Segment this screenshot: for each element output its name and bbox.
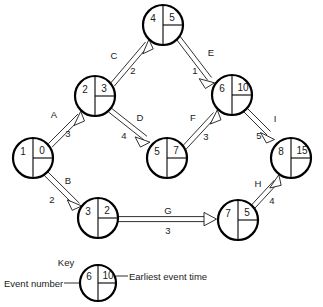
edge-F: F 3 xyxy=(182,110,221,150)
edge-G-duration-label: 3 xyxy=(165,225,170,236)
node-8-event-number: 8 xyxy=(278,146,284,157)
key-earliest-event-time-label: Earliest event time xyxy=(129,271,207,282)
node-6-event-number: 6 xyxy=(219,83,225,94)
edge-B: B 2 xyxy=(43,171,82,211)
node-event-6[interactable]: 6 10 xyxy=(212,75,252,115)
edge-H-activity-label: H xyxy=(255,178,262,189)
node-4-event-number: 4 xyxy=(150,13,156,24)
edge-D-activity-label: D xyxy=(137,112,144,123)
edge-B-duration-label: 2 xyxy=(49,194,54,205)
node-4-earliest-time: 5 xyxy=(169,12,175,23)
node-event-8[interactable]: 8 15 xyxy=(271,138,311,178)
node-8-earliest-time: 15 xyxy=(296,145,308,156)
edge-C: C 2 xyxy=(111,39,154,86)
edge-G: G 3 xyxy=(118,205,217,236)
node-3-earliest-time: 2 xyxy=(104,205,110,216)
edge-F-duration-label: 3 xyxy=(203,131,208,142)
node-event-7[interactable]: 7 5 xyxy=(218,200,258,240)
node-1-event-number: 1 xyxy=(20,146,26,157)
edge-E-duration-label: 1 xyxy=(192,65,197,76)
edge-I-activity-label: I xyxy=(274,113,277,124)
edge-F-activity-label: F xyxy=(190,112,196,123)
node-6-earliest-time: 10 xyxy=(237,82,249,93)
edge-H: H 4 xyxy=(251,175,281,209)
node-2-event-number: 2 xyxy=(82,84,88,95)
node-7-earliest-time: 5 xyxy=(244,207,250,218)
node-event-5[interactable]: 5 7 xyxy=(147,138,187,178)
node-3-event-number: 3 xyxy=(85,206,91,217)
edge-I: I 5 xyxy=(244,108,277,143)
edge-C-duration-label: 2 xyxy=(130,65,135,76)
node-1-earliest-time: 0 xyxy=(39,145,45,156)
activity-network-diagram: A 3 B 2 C 2 D 4 E 1 xyxy=(0,0,323,307)
edge-E-activity-label: E xyxy=(208,47,214,58)
edge-D-duration-label: 4 xyxy=(121,130,126,141)
key-legend: Key Event number 6 10 Earliest event tim… xyxy=(4,257,207,302)
edge-H-duration-label: 4 xyxy=(269,195,274,206)
node-5-event-number: 5 xyxy=(154,146,160,157)
edge-A-activity-label: A xyxy=(51,109,58,120)
edge-A-duration-label: 3 xyxy=(65,128,70,139)
node-event-2[interactable]: 2 3 xyxy=(75,76,115,116)
network-diagram-page: A 3 B 2 C 2 D 4 E 1 xyxy=(0,0,323,307)
edge-E: E 1 xyxy=(176,35,215,88)
edge-G-activity-label: G xyxy=(164,205,171,216)
edge-C-activity-label: C xyxy=(111,50,118,61)
edge-I-duration-label: 5 xyxy=(256,130,261,141)
edge-B-activity-label: B xyxy=(65,175,71,186)
key-node-earliest-time: 10 xyxy=(102,270,114,281)
edge-A: A 3 xyxy=(48,109,84,148)
node-event-3[interactable]: 3 2 xyxy=(78,198,118,238)
node-event-4[interactable]: 4 5 xyxy=(143,5,183,45)
key-title: Key xyxy=(58,257,75,268)
node-5-earliest-time: 7 xyxy=(173,145,179,156)
key-event-number-label: Event number xyxy=(4,278,63,289)
edge-D: D 4 xyxy=(108,108,150,147)
node-event-1[interactable]: 1 0 xyxy=(13,138,53,178)
key-node-event-number: 6 xyxy=(86,271,92,282)
node-2-earliest-time: 3 xyxy=(101,83,107,94)
node-7-event-number: 7 xyxy=(225,208,231,219)
